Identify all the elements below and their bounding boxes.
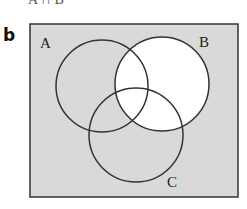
venn-diagram: A B C (0, 0, 247, 209)
set-c-label: C (167, 174, 177, 190)
set-a-label: A (40, 35, 51, 51)
set-b-label: B (199, 34, 209, 50)
